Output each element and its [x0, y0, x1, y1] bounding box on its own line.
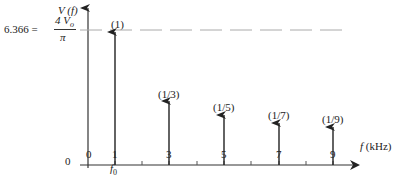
x-tick-5: 5	[221, 148, 227, 160]
spike-label-1: (1)	[111, 18, 124, 30]
spectral-lines	[115, 32, 333, 165]
y-zero-label: 0	[65, 155, 71, 167]
spike-label-9: (1/9)	[322, 113, 343, 125]
x-tick-1: 1	[112, 148, 118, 160]
spike-label-7: (1/7)	[268, 109, 289, 121]
f0-label: f0	[110, 162, 117, 177]
spike-label-5: (1/5)	[213, 101, 234, 113]
x-tick-7: 7	[276, 148, 282, 160]
ref-denominator: π	[60, 31, 66, 43]
spike-label-3: (1/3)	[158, 88, 179, 100]
fraction-bar	[54, 29, 76, 30]
x-tick-0: 0	[86, 148, 92, 160]
x-tick-3: 3	[166, 148, 172, 160]
x-tick-9: 9	[330, 148, 336, 160]
x-axis-label: f (kHz)	[360, 140, 391, 152]
ref-numerator: 4 Vo	[55, 14, 74, 29]
ref-value-label: 6.366 =	[4, 23, 38, 35]
